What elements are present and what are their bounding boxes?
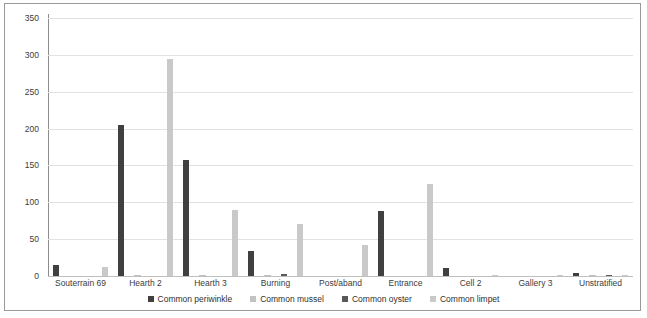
y-axis-tick-label: 200	[25, 124, 39, 133]
x-axis-tick-label: Hearth 3	[194, 279, 227, 288]
legend-label: Common periwinkle	[158, 295, 233, 304]
x-axis-tick-label: Burning	[261, 279, 290, 288]
bar[interactable]	[199, 275, 205, 276]
bar-group	[438, 18, 503, 276]
y-axis-tick-label: 150	[25, 161, 39, 170]
bar[interactable]	[232, 210, 238, 276]
y-axis-tick-label: 50	[30, 235, 39, 244]
plot-area	[48, 18, 633, 276]
legend-label: Common oyster	[352, 295, 412, 304]
bar[interactable]	[297, 224, 303, 276]
bar[interactable]	[248, 251, 254, 276]
legend-item[interactable]: Common mussel	[250, 295, 324, 304]
y-axis-tick-label: 0	[34, 272, 39, 281]
bar-group	[48, 18, 113, 276]
legend-label: Common limpet	[440, 295, 500, 304]
x-axis-baseline	[48, 276, 633, 277]
bar[interactable]	[589, 275, 595, 276]
bar-group	[243, 18, 308, 276]
x-axis-tick-labels: Souterrain 69Hearth 2Hearth 3BurningPost…	[48, 279, 633, 293]
bar[interactable]	[102, 267, 108, 276]
bar-group	[503, 18, 568, 276]
bar[interactable]	[492, 275, 498, 276]
bar[interactable]	[281, 274, 287, 276]
bar-group	[178, 18, 243, 276]
legend-swatch-icon	[342, 296, 348, 302]
bar[interactable]	[606, 275, 612, 276]
y-axis-tick-label: 250	[25, 87, 39, 96]
x-axis-tick-label: Unstratified	[579, 279, 622, 288]
bar[interactable]	[378, 211, 384, 276]
bar-group	[373, 18, 438, 276]
legend-swatch-icon	[148, 296, 154, 302]
bar[interactable]	[443, 268, 449, 276]
y-axis-tick-label: 350	[25, 14, 39, 23]
legend-label: Common mussel	[260, 295, 324, 304]
bar[interactable]	[53, 265, 59, 276]
chart-frame: 050100150200250300350 Souterrain 69Heart…	[4, 3, 641, 311]
y-axis-tick-label: 300	[25, 51, 39, 60]
bar[interactable]	[427, 184, 433, 276]
y-axis-tick-labels: 050100150200250300350	[5, 18, 45, 276]
x-axis-tick-label: Gallery 3	[518, 279, 552, 288]
bar-group	[113, 18, 178, 276]
bar[interactable]	[362, 245, 368, 276]
y-axis-tick-label: 100	[25, 198, 39, 207]
legend-item[interactable]: Common periwinkle	[148, 295, 233, 304]
legend-swatch-icon	[430, 296, 436, 302]
x-axis-tick-label: Entrance	[388, 279, 422, 288]
legend-item[interactable]: Common limpet	[430, 295, 500, 304]
legend-swatch-icon	[250, 296, 256, 302]
bar[interactable]	[118, 125, 124, 276]
bar[interactable]	[573, 273, 579, 276]
bar[interactable]	[167, 59, 173, 276]
legend-item[interactable]: Common oyster	[342, 295, 412, 304]
bar[interactable]	[557, 275, 563, 276]
bar[interactable]	[264, 275, 270, 276]
x-axis-tick-label: Souterrain 69	[55, 279, 106, 288]
x-axis-tick-label: Hearth 2	[129, 279, 162, 288]
x-axis-tick-label: Post/aband	[319, 279, 362, 288]
bar-group	[308, 18, 373, 276]
bar[interactable]	[183, 160, 189, 276]
x-axis-tick-label: Cell 2	[460, 279, 482, 288]
chart-legend: Common periwinkleCommon musselCommon oys…	[5, 295, 642, 304]
bar[interactable]	[134, 275, 140, 276]
bar[interactable]	[622, 275, 628, 276]
bar-group	[568, 18, 633, 276]
